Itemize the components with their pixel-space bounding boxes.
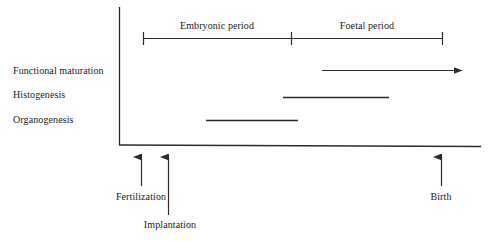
period-label-foetal: Foetal period bbox=[340, 20, 394, 31]
period-brackets bbox=[143, 32, 443, 45]
row-label-functional-maturation: Functional maturation bbox=[13, 65, 104, 76]
event-markers bbox=[142, 157, 442, 215]
event-label-fertilization: Fertilization bbox=[116, 191, 166, 202]
period-label-embryonic: Embryonic period bbox=[180, 20, 254, 31]
prenatal-timeline-figure: Embryonic period Foetal period Functiona… bbox=[0, 0, 489, 241]
row-label-histogenesis: Histogenesis bbox=[13, 89, 65, 100]
event-label-birth: Birth bbox=[430, 191, 451, 202]
row-label-organogenesis: Organogenesis bbox=[13, 114, 74, 125]
axis-group bbox=[119, 7, 481, 147]
time-axis bbox=[119, 145, 481, 147]
row-bars bbox=[206, 71, 462, 121]
event-label-implantation: Implantation bbox=[144, 219, 196, 230]
